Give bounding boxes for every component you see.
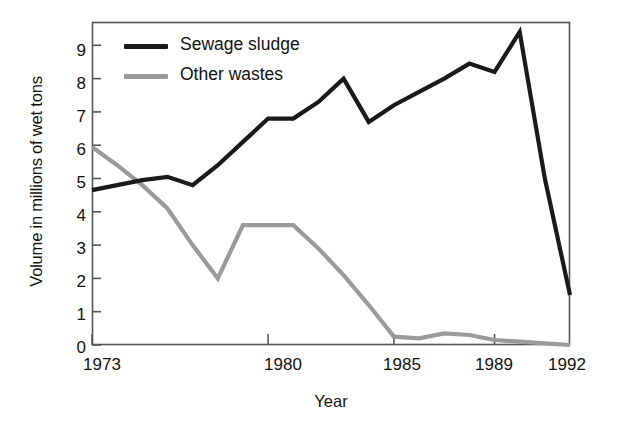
series-line-sewage-sludge — [92, 32, 570, 295]
data-series-group — [92, 32, 570, 345]
plot-frame — [93, 23, 570, 345]
chart-figure: Volume in millions of wet tons Year 0 1 … — [0, 0, 617, 435]
plot-area — [0, 0, 617, 435]
